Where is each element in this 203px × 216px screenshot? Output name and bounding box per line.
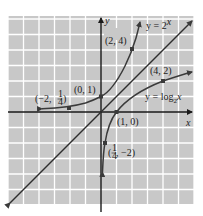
label-1-0: (1, 0) [117,116,139,128]
point-4-2 [161,79,165,83]
point-2-4 [130,47,134,51]
point-0-1 [99,95,103,99]
point-quarter-neg2 [103,141,107,145]
svg-text:(−2,: (−2, [35,93,51,105]
svg-text:): ) [63,93,66,105]
function-graph: y x y = 2x y = log2x (2, 4) (0, 1) (4, 2… [0,0,203,216]
point-1-0 [115,110,119,114]
y-axis-label: y [104,15,110,26]
point-neg2-quarter [67,106,71,110]
svg-text:, −2): , −2) [116,147,135,159]
label-0-1: (0, 1) [74,84,96,96]
x-axis-label: x [185,117,191,128]
label-4-2: (4, 2) [150,65,172,77]
label-2-4: (2, 4) [105,35,127,47]
